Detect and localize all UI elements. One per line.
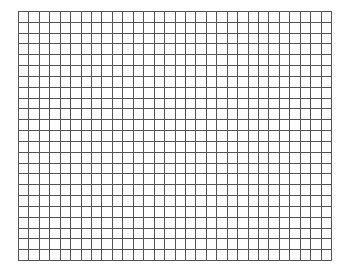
graph-paper-grid	[18, 11, 331, 260]
grid-lines	[18, 11, 332, 261]
